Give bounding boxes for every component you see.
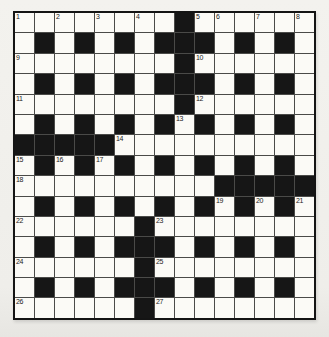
grid-cell[interactable]: 12: [195, 95, 214, 114]
grid-cell[interactable]: 3: [95, 13, 114, 32]
grid-cell[interactable]: [255, 258, 274, 277]
grid-cell[interactable]: [175, 176, 194, 195]
grid-cell[interactable]: [235, 13, 254, 32]
grid-cell[interactable]: [215, 74, 234, 93]
grid-cell[interactable]: 23: [155, 217, 174, 236]
grid-cell[interactable]: [295, 156, 314, 175]
grid-cell[interactable]: [155, 95, 174, 114]
grid-cell[interactable]: [95, 237, 114, 256]
grid-cell[interactable]: [255, 217, 274, 236]
grid-cell[interactable]: [295, 217, 314, 236]
grid-cell[interactable]: [175, 258, 194, 277]
grid-cell[interactable]: 10: [195, 54, 214, 73]
grid-cell[interactable]: [75, 176, 94, 195]
grid-cell[interactable]: [275, 95, 294, 114]
grid-cell[interactable]: 14: [115, 135, 134, 154]
grid-cell[interactable]: [15, 74, 34, 93]
grid-cell[interactable]: [295, 135, 314, 154]
grid-cell[interactable]: [195, 217, 214, 236]
grid-cell[interactable]: [35, 176, 54, 195]
grid-cell[interactable]: [275, 298, 294, 317]
grid-cell[interactable]: [175, 197, 194, 216]
grid-cell[interactable]: [135, 115, 154, 134]
grid-cell[interactable]: [35, 298, 54, 317]
grid-cell[interactable]: [75, 298, 94, 317]
grid-cell[interactable]: [275, 217, 294, 236]
grid-cell[interactable]: 5: [195, 13, 214, 32]
grid-cell[interactable]: [255, 33, 274, 52]
grid-cell[interactable]: 9: [15, 54, 34, 73]
grid-cell[interactable]: 15: [15, 156, 34, 175]
grid-cell[interactable]: [215, 278, 234, 297]
grid-cell[interactable]: [135, 176, 154, 195]
grid-cell[interactable]: [135, 197, 154, 216]
grid-cell[interactable]: [55, 237, 74, 256]
grid-cell[interactable]: 21: [295, 197, 314, 216]
grid-cell[interactable]: [115, 258, 134, 277]
grid-cell[interactable]: [255, 54, 274, 73]
grid-cell[interactable]: [95, 176, 114, 195]
grid-cell[interactable]: 2: [55, 13, 74, 32]
grid-cell[interactable]: 7: [255, 13, 274, 32]
grid-cell[interactable]: 17: [95, 156, 114, 175]
grid-cell[interactable]: 1: [15, 13, 34, 32]
grid-cell[interactable]: [155, 54, 174, 73]
grid-cell[interactable]: [175, 278, 194, 297]
grid-cell[interactable]: [215, 135, 234, 154]
grid-cell[interactable]: [295, 95, 314, 114]
grid-cell[interactable]: [235, 135, 254, 154]
grid-cell[interactable]: [15, 33, 34, 52]
grid-cell[interactable]: [195, 258, 214, 277]
grid-cell[interactable]: [255, 95, 274, 114]
grid-cell[interactable]: [215, 95, 234, 114]
grid-cell[interactable]: [215, 33, 234, 52]
grid-cell[interactable]: [155, 135, 174, 154]
grid-cell[interactable]: [35, 258, 54, 277]
grid-cell[interactable]: 20: [255, 197, 274, 216]
grid-cell[interactable]: [235, 95, 254, 114]
grid-cell[interactable]: [15, 278, 34, 297]
grid-cell[interactable]: [235, 217, 254, 236]
grid-cell[interactable]: 26: [15, 298, 34, 317]
grid-cell[interactable]: [15, 197, 34, 216]
grid-cell[interactable]: [255, 135, 274, 154]
grid-cell[interactable]: [55, 197, 74, 216]
grid-cell[interactable]: [195, 176, 214, 195]
grid-cell[interactable]: [115, 298, 134, 317]
grid-cell[interactable]: [95, 298, 114, 317]
grid-cell[interactable]: [135, 74, 154, 93]
grid-cell[interactable]: [55, 176, 74, 195]
grid-cell[interactable]: [115, 95, 134, 114]
grid-cell[interactable]: [295, 54, 314, 73]
grid-cell[interactable]: 18: [15, 176, 34, 195]
grid-cell[interactable]: [175, 135, 194, 154]
grid-cell[interactable]: [195, 135, 214, 154]
grid-cell[interactable]: [115, 176, 134, 195]
grid-cell[interactable]: [255, 156, 274, 175]
grid-cell[interactable]: [115, 13, 134, 32]
grid-cell[interactable]: [275, 258, 294, 277]
grid-cell[interactable]: [175, 217, 194, 236]
grid-cell[interactable]: [55, 278, 74, 297]
grid-cell[interactable]: [175, 298, 194, 317]
grid-cell[interactable]: 6: [215, 13, 234, 32]
grid-cell[interactable]: [55, 258, 74, 277]
grid-cell[interactable]: [95, 278, 114, 297]
grid-cell[interactable]: [295, 258, 314, 277]
grid-cell[interactable]: [95, 33, 114, 52]
grid-cell[interactable]: [215, 115, 234, 134]
grid-cell[interactable]: [55, 298, 74, 317]
grid-cell[interactable]: [15, 237, 34, 256]
grid-cell[interactable]: [115, 217, 134, 236]
grid-cell[interactable]: [95, 54, 114, 73]
grid-cell[interactable]: [75, 217, 94, 236]
grid-cell[interactable]: [55, 33, 74, 52]
grid-cell[interactable]: [255, 115, 274, 134]
grid-cell[interactable]: [35, 217, 54, 236]
grid-cell[interactable]: [295, 278, 314, 297]
grid-cell[interactable]: [95, 95, 114, 114]
grid-cell[interactable]: [215, 54, 234, 73]
grid-cell[interactable]: [235, 54, 254, 73]
grid-cell[interactable]: [235, 298, 254, 317]
grid-cell[interactable]: 13: [175, 115, 194, 134]
